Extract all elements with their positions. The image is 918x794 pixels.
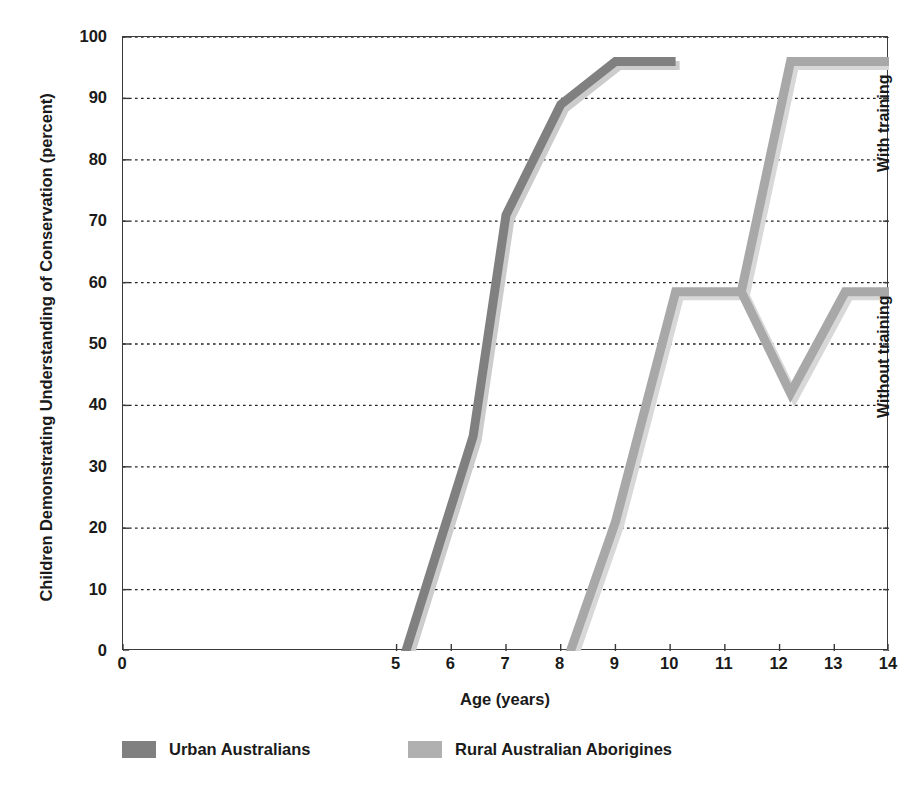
- x-tick-label-5: 5: [376, 655, 416, 672]
- legend-item-rural[interactable]: Rural Australian Aborigines: [408, 740, 672, 759]
- legend-swatch-rural: [408, 741, 442, 758]
- x-tick-label-13: 13: [813, 655, 853, 672]
- y-tick-label-50: 50: [55, 335, 107, 352]
- y-tick-label-0: 0: [55, 642, 107, 659]
- chart-figure: Children Demonstrating Understanding of …: [0, 0, 918, 794]
- y-tick-label-20: 20: [55, 519, 107, 536]
- y-axis-title: Children Demonstrating Understanding of …: [37, 28, 56, 668]
- y-tick-label-60: 60: [55, 274, 107, 291]
- legend-label-urban: Urban Australians: [169, 740, 311, 759]
- x-tick-marks: [123, 644, 889, 651]
- legend-label-rural: Rural Australian Aborigines: [455, 740, 672, 759]
- x-tick-label-6: 6: [430, 655, 470, 672]
- x-tick-label-11: 11: [704, 655, 744, 672]
- data-series-layer: [402, 62, 889, 651]
- y-tick-label-70: 70: [55, 212, 107, 229]
- legend-item-urban[interactable]: Urban Australians: [122, 740, 311, 759]
- x-tick-label-12: 12: [759, 655, 799, 672]
- chart-legend: Urban Australians Rural Australian Abori…: [122, 738, 888, 768]
- plot-canvas: [123, 37, 889, 651]
- x-tick-label-0: 0: [102, 655, 142, 672]
- annotation-without-training: Without training: [875, 295, 893, 418]
- x-tick-label-14: 14: [868, 655, 908, 672]
- x-tick-label-7: 7: [485, 655, 525, 672]
- x-tick-label-8: 8: [540, 655, 580, 672]
- plot-area: With trainingWithout training: [122, 36, 888, 650]
- annotation-with-training: With training: [875, 74, 893, 172]
- y-tick-label-40: 40: [55, 396, 107, 413]
- x-tick-label-10: 10: [649, 655, 689, 672]
- x-tick-label-9: 9: [594, 655, 634, 672]
- y-tick-label-100: 100: [55, 28, 107, 45]
- y-tick-label-90: 90: [55, 89, 107, 106]
- y-tick-label-10: 10: [55, 581, 107, 598]
- legend-swatch-urban: [122, 741, 156, 758]
- y-tick-label-30: 30: [55, 458, 107, 475]
- x-axis-title: Age (years): [122, 690, 888, 709]
- y-tick-label-80: 80: [55, 151, 107, 168]
